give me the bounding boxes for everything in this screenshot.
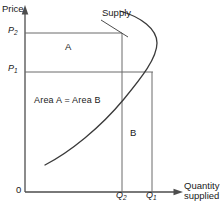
region-label-a: A: [65, 42, 71, 52]
x-axis-label-line2: supplied: [184, 191, 219, 201]
x-axis: [25, 189, 183, 196]
supply-curve: [45, 11, 157, 165]
y-tick-label-p1: P1: [8, 64, 18, 74]
y-tick-p1-subscript: 1: [14, 67, 18, 74]
y-axis-label: Price: [2, 4, 24, 14]
x-tick-q1-subscript: 1: [153, 194, 157, 201]
x-tick-q2-base: Q: [116, 190, 123, 200]
x-tick-label-q2: Q2: [116, 191, 127, 201]
x-tick-q1-base: Q: [146, 190, 153, 200]
x-axis-label: Quantity supplied: [184, 181, 219, 202]
area-equality-note: Area A = Area B: [34, 96, 101, 106]
region-label-b: B: [130, 128, 136, 138]
supply-curve-figure: Price Quantity supplied 0 P2 P1 Q2 Q1 Su…: [0, 0, 224, 207]
x-tick-label-q1: Q1: [146, 191, 157, 201]
x-tick-q2-subscript: 2: [123, 194, 127, 201]
supply-label-leader-line: [101, 20, 128, 37]
y-tick-p2-subscript: 2: [14, 29, 18, 36]
y-tick-label-p2: P2: [8, 26, 18, 36]
origin-label: 0: [16, 185, 21, 195]
supply-curve-label: Supply: [102, 8, 131, 18]
